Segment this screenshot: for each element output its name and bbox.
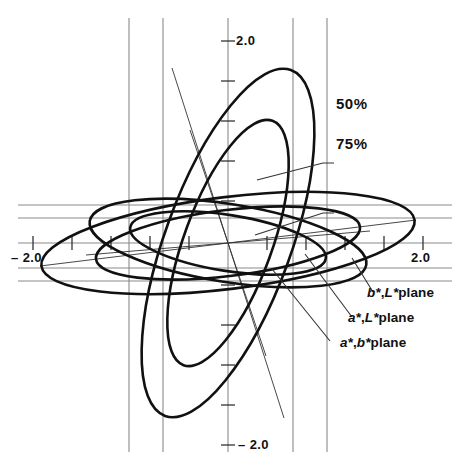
- y-axis-top-label: 2.0: [236, 33, 255, 48]
- x-axis-right-label: 2.0: [411, 250, 430, 265]
- plane-label-aL-sym2: L*: [365, 310, 379, 325]
- y-axis-bottom-label: – 2.0: [238, 437, 269, 452]
- confidence-label-75: 75%: [336, 135, 368, 152]
- x-axis-left-label: – 2.0: [11, 250, 42, 265]
- confidence-label-50: 50%: [336, 95, 368, 112]
- plane-label-bL-sym1: b*: [367, 285, 381, 300]
- plane-label-aL-rest: plane: [379, 310, 415, 325]
- plane-label-aL: a*,L*plane: [348, 310, 414, 325]
- plane-label-ab: a*,b*plane: [340, 335, 406, 350]
- figure-canvas: 2.0 – 2.0 – 2.0 2.0 50% 75% b*,L*plane a…: [0, 0, 470, 470]
- plane-label-bL: b*,L*plane: [367, 285, 434, 300]
- plane-label-aL-sym1: a*: [348, 310, 361, 325]
- plane-label-ab-rest: plane: [371, 335, 407, 350]
- plane-label-ab-sym2: b*: [357, 335, 371, 350]
- plane-label-ab-sym1: a*: [340, 335, 353, 350]
- leader-50: [257, 163, 334, 180]
- plane-label-bL-rest: plane: [398, 285, 434, 300]
- leader-ab-plane: [272, 269, 330, 341]
- plane-label-bL-sym2: L*: [385, 285, 399, 300]
- plot-svg: [0, 0, 470, 470]
- leader-lines-confidence: [255, 163, 334, 235]
